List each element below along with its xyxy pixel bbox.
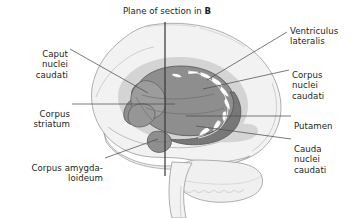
label-caput-nuclei-caudati-text: Caput nuclei caudati [36, 49, 68, 79]
label-corpus-nuclei-caudati: Corpus nuclei caudati [292, 60, 363, 101]
plane-of-section-title: Plane of section in B [97, 6, 237, 16]
label-corpus-nuclei-caudati-text: Corpus nuclei caudati [292, 70, 324, 100]
label-corpus-striatum-text: Corpus striatum [33, 109, 70, 129]
plane-of-section-text: Plane of section in [123, 6, 202, 16]
plane-of-section-letter: B [205, 6, 212, 16]
label-corpus-amygdaloideum-text: Corpus amygda- loideum [31, 163, 103, 183]
label-cauda-nuclei-caudati: Cauda nuclei caudati [294, 134, 363, 175]
label-corpus-amygdaloideum: Corpus amygda- loideum [0, 153, 103, 184]
label-cauda-nuclei-caudati-text: Cauda nuclei caudati [294, 144, 326, 174]
label-caput-nuclei-caudati: Caput nuclei caudati [0, 39, 68, 80]
label-ventriculus-lateralis: Ventriculus lateralis [290, 16, 363, 47]
label-putamen-text: Putamen [294, 121, 333, 131]
label-corpus-striatum: Corpus striatum [0, 99, 70, 130]
label-putamen: Putamen [294, 111, 363, 131]
label-ventriculus-lateralis-text: Ventriculus lateralis [290, 26, 338, 46]
